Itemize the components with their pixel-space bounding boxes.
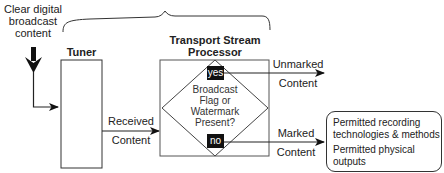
- input-label: Clear digital broadcast content: [0, 3, 66, 39]
- edge-label-line: Content: [270, 146, 322, 159]
- item-line: outputs: [333, 156, 415, 168]
- edge-label-line: Content: [104, 134, 158, 147]
- received-content-label: Received Content: [104, 115, 158, 147]
- edge-label-line: Received: [104, 115, 158, 128]
- yes-tag: yes: [207, 66, 224, 80]
- input-arrow-shaft: [31, 47, 36, 61]
- tsp-title: Transport Stream Processor: [160, 34, 270, 58]
- edge-label-line: Content: [267, 77, 329, 90]
- input-label-line: content: [0, 27, 66, 39]
- permitted-physical-outputs-item: Permitted physical outputs: [333, 144, 415, 167]
- tuner-box: [61, 60, 102, 168]
- tsp-title-line: Processor: [160, 46, 270, 58]
- decision-question: Broadcast Flag or Watermark Present?: [180, 84, 250, 128]
- tuner-title: Tuner: [61, 46, 102, 58]
- edge-label-line: Unmarked: [267, 58, 329, 71]
- input-label-line: broadcast: [0, 15, 66, 27]
- item-line: technologies & methods: [333, 129, 440, 141]
- no-tag: no: [207, 134, 224, 148]
- tsp-title-line: Transport Stream: [160, 34, 270, 46]
- input-label-line: Clear digital: [0, 3, 66, 15]
- item-line: Permitted recording: [333, 117, 440, 129]
- edge-label-line: Marked: [270, 127, 322, 140]
- item-line: Permitted physical: [333, 144, 415, 156]
- question-line: Broadcast: [180, 84, 250, 95]
- question-line: Watermark: [180, 106, 250, 117]
- permitted-recording-item: Permitted recording technologies & metho…: [333, 117, 440, 140]
- question-line: Flag or: [180, 95, 250, 106]
- marked-content-label: Marked Content: [270, 127, 322, 159]
- unmarked-content-label: Unmarked Content: [267, 58, 329, 90]
- permitted-outputs-box: Permitted recording technologies & metho…: [326, 111, 442, 172]
- group-brace: [63, 11, 270, 32]
- question-line: Present?: [180, 117, 250, 128]
